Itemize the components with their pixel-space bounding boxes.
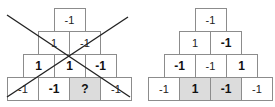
- pyramid-cell: -1: [38, 77, 70, 101]
- pyramid-cell: -1: [100, 77, 132, 101]
- unknown-cell: ?: [69, 77, 101, 101]
- pyramid-cell: -1: [164, 54, 196, 78]
- pyramid-cell: -1: [210, 77, 242, 101]
- pyramid-cell: 1: [226, 54, 258, 78]
- pyramid-cell: -1: [7, 77, 39, 101]
- left-pyramid-crossed-out: -11-111-1-1-1?-1: [0, 0, 130, 107]
- pyramid-cell: -1: [241, 77, 273, 101]
- pyramid-cell: -1: [210, 31, 242, 55]
- pyramid-cell: 1: [179, 77, 211, 101]
- pyramid-cell: -1: [148, 77, 180, 101]
- pyramid-cell: -1: [85, 54, 117, 78]
- pyramid-cell: 1: [23, 54, 55, 78]
- pyramid-cell: -1: [195, 8, 227, 32]
- pyramid-cell: 1: [38, 31, 70, 55]
- pyramid-cell: -1: [54, 8, 86, 32]
- pyramid-cell: 1: [54, 54, 86, 78]
- pyramid-cell: -1: [69, 31, 101, 55]
- pyramid-cell: 1: [179, 31, 211, 55]
- right-pyramid: -11-1-1-11-11-1-1: [141, 0, 271, 107]
- pyramid-cell: -1: [195, 54, 227, 78]
